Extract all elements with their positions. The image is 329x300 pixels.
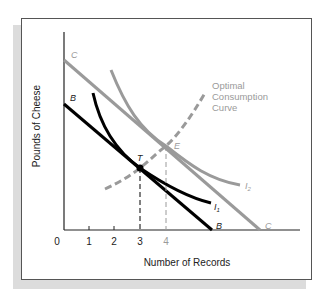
occ-label-line2: Consumption	[212, 91, 268, 102]
line-b-label-bottom: B	[216, 221, 222, 231]
x-axis-title: Number of Records	[144, 257, 231, 268]
x-tick-label-3: 3	[137, 236, 143, 247]
occ-label-line3: Curve	[212, 102, 237, 113]
i1-label: I1	[214, 202, 220, 213]
line-c-label-bottom: C	[265, 221, 272, 231]
point-t-marker	[137, 165, 144, 172]
x-tick-label-1: 1	[86, 236, 92, 247]
x-tick-label-0: 0	[54, 236, 60, 247]
line-b-label-top: B	[70, 93, 76, 103]
line-c-label-top: C	[71, 50, 78, 60]
x-tick-label-2: 2	[111, 236, 117, 247]
point-t-label: T	[137, 153, 144, 163]
occ-label-line1: Optimal	[212, 80, 245, 91]
point-e-label: E	[174, 141, 181, 151]
x-tick-label-4: 4	[163, 236, 169, 247]
y-axis-title: Pounds of Cheese	[31, 84, 42, 167]
chart-plot: 0 1 2 3 4 Number of Records Pounds of Ch…	[0, 0, 329, 300]
i2-label: I2	[245, 181, 252, 192]
